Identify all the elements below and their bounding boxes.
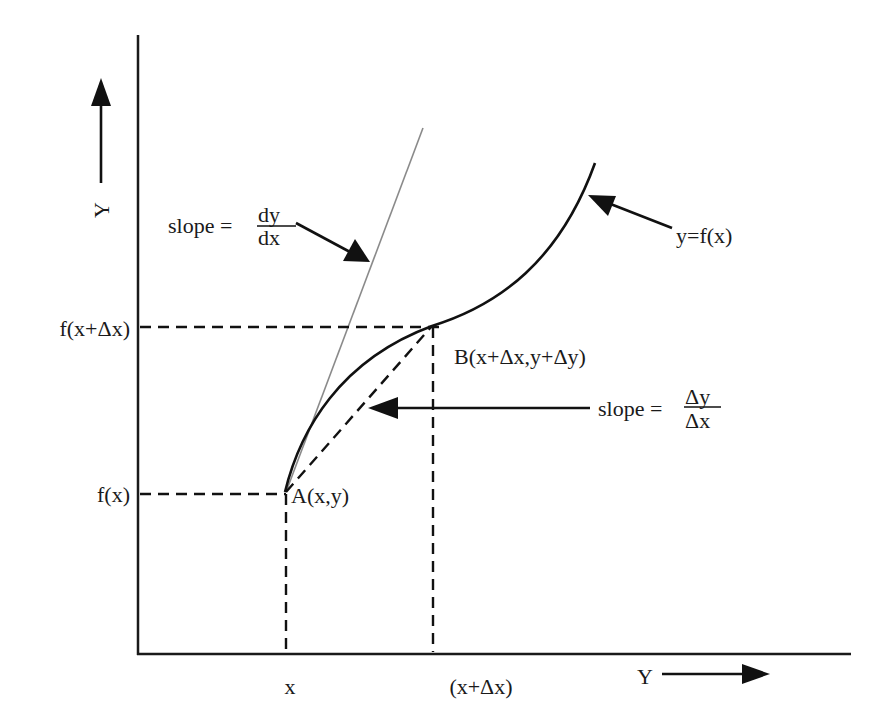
function-curve <box>285 163 595 492</box>
tangent-slope-prefix: slope = <box>168 213 232 238</box>
point-a-label: A(x,y) <box>291 483 349 508</box>
x-tick-x: x <box>285 674 296 699</box>
curve-label: y=f(x) <box>676 223 732 248</box>
x-direction-indicator: Y <box>637 664 770 689</box>
curve-label-annotation: y=f(x) <box>588 195 732 248</box>
curve-pointer-shaft <box>608 203 672 228</box>
point-b-label: B(x+Δx,y+Δy) <box>454 344 586 369</box>
secant-slope-numerator: Δy <box>685 384 710 409</box>
derivative-diagram: Y Y f(x+Δx) f(x) x (x+Δx) A(x,y) B(x+Δx,… <box>0 0 891 724</box>
tangent-pointer-shaft <box>296 223 350 252</box>
secant-slope-denominator: Δx <box>685 408 710 433</box>
arrow-right-icon <box>742 664 770 684</box>
tangent-line <box>286 128 423 492</box>
tangent-slope-denominator: dx <box>258 225 280 250</box>
y-direction-indicator: Y <box>89 78 114 218</box>
x-axis-label: Y <box>637 664 653 689</box>
arrow-up-icon <box>91 78 111 106</box>
secant-slope-prefix: slope = <box>598 396 662 421</box>
arrow-left-icon <box>368 397 398 419</box>
arrow-pointer-icon <box>588 195 616 216</box>
tangent-slope-annotation: slope = dy dx <box>168 202 370 262</box>
tangent-slope-numerator: dy <box>258 202 280 227</box>
y-tick-fx: f(x) <box>97 482 130 507</box>
y-tick-fx-plus-dx: f(x+Δx) <box>59 316 130 341</box>
secant-slope-annotation: slope = Δy Δx <box>368 384 721 433</box>
x-tick-x-plus-dx: (x+Δx) <box>449 674 512 699</box>
y-axis-label: Y <box>89 202 114 218</box>
